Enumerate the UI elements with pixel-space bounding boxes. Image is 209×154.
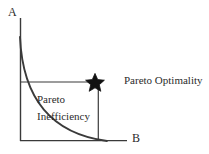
- axis-label-a: A: [8, 6, 17, 18]
- label-pareto-optimality: Pareto Optimality: [124, 75, 203, 86]
- pareto-frontier-curve: [20, 37, 107, 141]
- pareto-frontier-figure: A B Pareto Optimality Pareto Inefficienc…: [0, 0, 209, 154]
- pareto-optimal-star-icon: [86, 73, 105, 91]
- label-pareto: Pareto: [37, 94, 65, 105]
- axis-label-b: B: [132, 132, 140, 144]
- label-inefficiency: Inefficiency: [37, 111, 90, 122]
